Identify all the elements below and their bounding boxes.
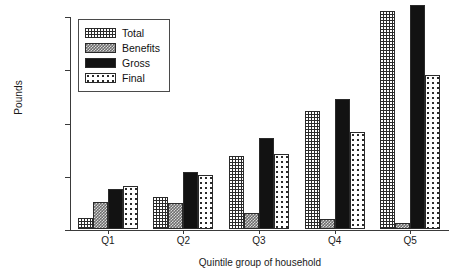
legend-swatch-final-icon (85, 73, 116, 83)
legend-label-total: Total (122, 27, 144, 39)
legend-item-gross: Gross (85, 56, 160, 70)
bar-gross-q1 (108, 189, 123, 229)
bar-benefits-q1 (93, 202, 108, 229)
x-tick (108, 230, 109, 234)
bar-chart: Pounds Quintile group of household 010 0… (0, 0, 457, 277)
bar-final-q5 (425, 75, 440, 229)
bar-benefits-q2 (168, 203, 183, 229)
x-tick-label-q2: Q2 (153, 235, 213, 246)
legend-swatch-benefits-icon (85, 43, 116, 53)
legend-item-benefits: Benefits (85, 41, 160, 55)
y-tick (65, 70, 70, 71)
y-tick (65, 177, 70, 178)
bar-final-q4 (350, 132, 365, 229)
legend-swatch-total-icon (85, 28, 116, 38)
x-tick (259, 230, 260, 234)
bar-group (229, 16, 289, 229)
bar-total-q5 (380, 11, 395, 229)
x-tick (335, 230, 336, 234)
bar-group (305, 16, 365, 229)
x-tick (183, 230, 184, 234)
legend-swatch-gross-icon (85, 58, 116, 68)
bar-total-q2 (153, 197, 168, 229)
bar-gross-q2 (183, 172, 198, 230)
bar-total-q4 (305, 111, 320, 229)
y-tick (65, 124, 70, 125)
bar-gross-q4 (335, 99, 350, 229)
y-axis-line (70, 17, 71, 231)
bar-final-q1 (123, 186, 138, 229)
x-tick-label-q1: Q1 (78, 235, 138, 246)
x-tick-label-q5: Q5 (380, 235, 440, 246)
y-axis-title: Pounds (13, 58, 24, 138)
x-tick-label-q3: Q3 (229, 235, 289, 246)
chart-legend: Total Benefits Gross Final (78, 19, 170, 92)
bar-benefits-q3 (244, 213, 259, 230)
bar-final-q2 (198, 175, 213, 229)
x-axis-title: Quintile group of household (70, 257, 450, 268)
bar-final-q3 (274, 154, 289, 229)
bar-gross-q5 (410, 5, 425, 229)
bar-group (380, 16, 440, 229)
legend-item-final: Final (85, 71, 160, 85)
y-tick (65, 17, 70, 18)
y-tick (65, 230, 70, 231)
bar-benefits-q4 (320, 219, 335, 229)
legend-label-final: Final (122, 72, 145, 84)
bar-total-q1 (78, 218, 93, 229)
bar-total-q3 (229, 156, 244, 229)
bar-gross-q3 (259, 138, 274, 229)
legend-label-benefits: Benefits (122, 42, 160, 54)
legend-item-total: Total (85, 26, 160, 40)
bar-benefits-q5 (395, 223, 410, 229)
x-tick-label-q4: Q4 (305, 235, 365, 246)
x-tick (410, 230, 411, 234)
legend-label-gross: Gross (122, 57, 150, 69)
